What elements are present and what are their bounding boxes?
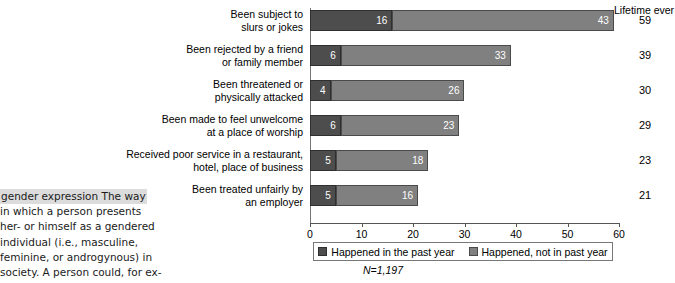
lifetime-ever-value: 29 <box>633 119 657 131</box>
x-axis-tick-label: 30 <box>459 228 471 240</box>
bar-value-label: 6 <box>330 121 336 131</box>
category-label: Been treated unfairly byan employer <box>3 183 303 208</box>
bar-value-label: 26 <box>448 86 459 96</box>
x-axis-tick-label: 50 <box>562 228 574 240</box>
category-label-line: Been subject to <box>3 8 303 21</box>
category-label-line: hotel, place of business <box>3 161 303 174</box>
category-label-line: Been rejected by a friend <box>3 43 303 56</box>
bar-segment-past-year[interactable]: 6 <box>310 115 341 136</box>
lifetime-ever-value: 30 <box>633 84 657 96</box>
category-label: Been threatened orphysically attacked <box>3 78 303 103</box>
legend-label: Happened, not in past year <box>482 246 608 258</box>
bar-value-label: 16 <box>376 16 387 26</box>
category-label-line: an employer <box>3 196 303 209</box>
bar-segment-not-past-year[interactable]: 26 <box>331 80 465 101</box>
bar-value-label: 5 <box>325 156 331 166</box>
category-label-line: at a place of worship <box>3 126 303 139</box>
category-label-line: Been made to feel unwelcome <box>3 113 303 126</box>
x-axis-tick-label: 0 <box>307 228 313 240</box>
x-axis-tick-label: 60 <box>613 228 625 240</box>
x-axis-tick <box>310 223 311 227</box>
lifetime-ever-value: 23 <box>633 154 657 166</box>
category-label: Received poor service in a restaurant,ho… <box>3 148 303 173</box>
legend-item-not-past-year[interactable]: Happened, not in past year <box>469 246 608 258</box>
lifetime-ever-value: 59 <box>633 14 657 26</box>
bar-row: 1643 <box>310 10 614 31</box>
discrimination-bar-chart: Lifetime ever 1643633426623518516 Been s… <box>0 0 675 283</box>
category-label-line: Been threatened or <box>3 78 303 91</box>
bar-segment-past-year[interactable]: 4 <box>310 80 331 101</box>
x-axis-tick <box>465 223 466 227</box>
lifetime-ever-value: 21 <box>633 189 657 201</box>
legend-swatch-icon <box>318 247 327 256</box>
category-label-line: Received poor service in a restaurant, <box>3 148 303 161</box>
bar-segment-past-year[interactable]: 5 <box>310 185 336 206</box>
x-axis-tick-label: 40 <box>510 228 522 240</box>
x-axis-tick-label: 20 <box>407 228 419 240</box>
x-axis-tick <box>568 223 569 227</box>
bar-value-label: 43 <box>598 16 609 26</box>
bar-row: 633 <box>310 45 511 66</box>
x-axis-tick <box>516 223 517 227</box>
bar-value-label: 4 <box>320 86 326 96</box>
category-label: Been subject toslurs or jokes <box>3 8 303 33</box>
category-label-line: physically attacked <box>3 91 303 104</box>
category-label-line: slurs or jokes <box>3 21 303 34</box>
chart-legend: Happened in the past year Happened, not … <box>313 242 613 261</box>
bar-segment-not-past-year[interactable]: 43 <box>392 10 613 31</box>
bar-segment-past-year[interactable]: 6 <box>310 45 341 66</box>
bar-segment-not-past-year[interactable]: 33 <box>341 45 511 66</box>
legend-label: Happened in the past year <box>331 246 454 258</box>
legend-swatch-icon <box>469 247 478 256</box>
bar-value-label: 18 <box>412 156 423 166</box>
category-label: Been made to feel unwelcomeat a place of… <box>3 113 303 138</box>
category-label: Been rejected by a friendor family membe… <box>3 43 303 68</box>
sample-size-footnote: N=1,197 <box>363 264 403 276</box>
category-label-line: Been treated unfairly by <box>3 183 303 196</box>
bar-value-label: 33 <box>495 51 506 61</box>
bar-value-label: 23 <box>443 121 454 131</box>
bar-segment-not-past-year[interactable]: 18 <box>336 150 429 171</box>
bar-segment-past-year[interactable]: 5 <box>310 150 336 171</box>
bar-segment-not-past-year[interactable]: 16 <box>336 185 418 206</box>
bar-row: 623 <box>310 115 459 136</box>
lifetime-ever-value: 39 <box>633 49 657 61</box>
bar-segment-past-year[interactable]: 16 <box>310 10 392 31</box>
bar-segment-not-past-year[interactable]: 23 <box>341 115 459 136</box>
x-axis-tick <box>619 223 620 227</box>
bar-row: 518 <box>310 150 428 171</box>
bar-value-label: 6 <box>330 51 336 61</box>
x-axis-tick <box>413 223 414 227</box>
category-label-line: or family member <box>3 56 303 69</box>
legend-item-past-year[interactable]: Happened in the past year <box>318 246 454 258</box>
bar-row: 516 <box>310 185 418 206</box>
x-axis-tick-label: 10 <box>356 228 368 240</box>
bar-value-label: 5 <box>325 191 331 201</box>
bar-row: 426 <box>310 80 465 101</box>
bar-value-label: 16 <box>402 191 413 201</box>
x-axis-tick <box>362 223 363 227</box>
